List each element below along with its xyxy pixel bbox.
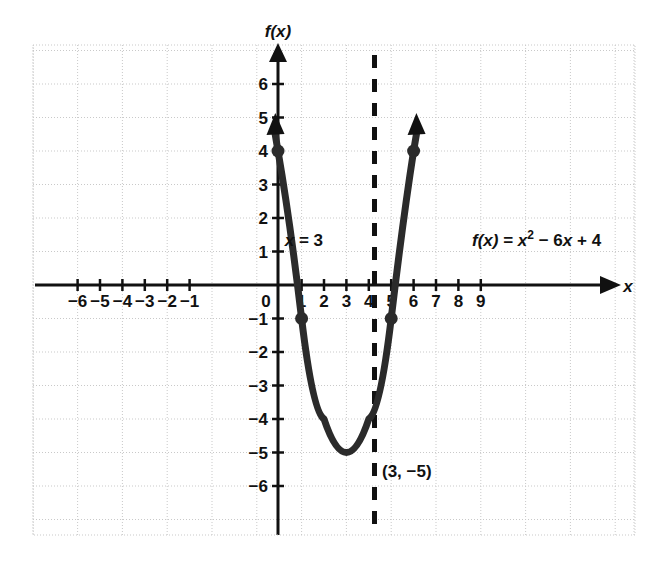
y-tick-label-6: 6	[259, 75, 268, 94]
point-0-4	[272, 145, 285, 158]
point-1--1	[295, 312, 308, 325]
x-tick-label--5: −5	[90, 292, 109, 311]
coordinate-plane-svg: −6 −5 −4 −3 −2 −1 0 1 2 3 4 5 6 7 8 9 6 …	[0, 0, 648, 564]
graph-figure: −6 −5 −4 −3 −2 −1 0 1 2 3 4 5 6 7 8 9 6 …	[0, 0, 648, 564]
y-tick-label-5: 5	[259, 109, 268, 128]
equation-label-tail: − 6	[534, 231, 563, 250]
y-tick-label-2: 2	[259, 209, 268, 228]
axis-of-symmetry-label: x = 3	[284, 231, 323, 250]
y-tick-label-3: 3	[259, 176, 268, 195]
axis-of-symmetry-label-rest: = 3	[294, 231, 323, 250]
y-tick-label--3: −3	[249, 377, 268, 396]
x-tick-label-9: 9	[476, 292, 485, 311]
x-tick-label--2: −2	[158, 292, 177, 311]
y-tick-label-1: 1	[259, 243, 268, 262]
x-tick-label--4: −4	[113, 292, 133, 311]
x-tick-label-6: 6	[409, 292, 418, 311]
vertex-label: (3, −5)	[382, 462, 432, 481]
x-tick-label-2: 2	[319, 292, 328, 311]
x-tick-label--3: −3	[135, 292, 154, 311]
x-tick-label-7: 7	[431, 292, 440, 311]
point-6-4	[407, 145, 420, 158]
equation-label: f(x) = x2 − 6x + 4	[472, 228, 602, 250]
x-axis-title: x	[622, 277, 634, 296]
x-tick-label-0: 0	[261, 292, 270, 311]
x-tick-label--1: −1	[180, 292, 199, 311]
y-axis-title: f(x)	[265, 22, 292, 41]
x-tick-label--6: −6	[68, 292, 87, 311]
y-tick-label-4: 4	[259, 142, 269, 161]
y-tick-label--4: −4	[249, 410, 269, 429]
y-tick-label--2: −2	[249, 343, 268, 362]
y-tick-label--6: −6	[249, 477, 268, 496]
x-tick-label-8: 8	[454, 292, 463, 311]
x-tick-label-3: 3	[342, 292, 351, 311]
y-tick-label--5: −5	[249, 444, 268, 463]
equation-label-end: + 4	[572, 231, 601, 250]
y-tick-label--1: −1	[249, 310, 268, 329]
equation-label-fx: f(x)	[472, 231, 499, 250]
point-5--1	[385, 312, 398, 325]
equation-label-eq: =	[498, 231, 517, 250]
